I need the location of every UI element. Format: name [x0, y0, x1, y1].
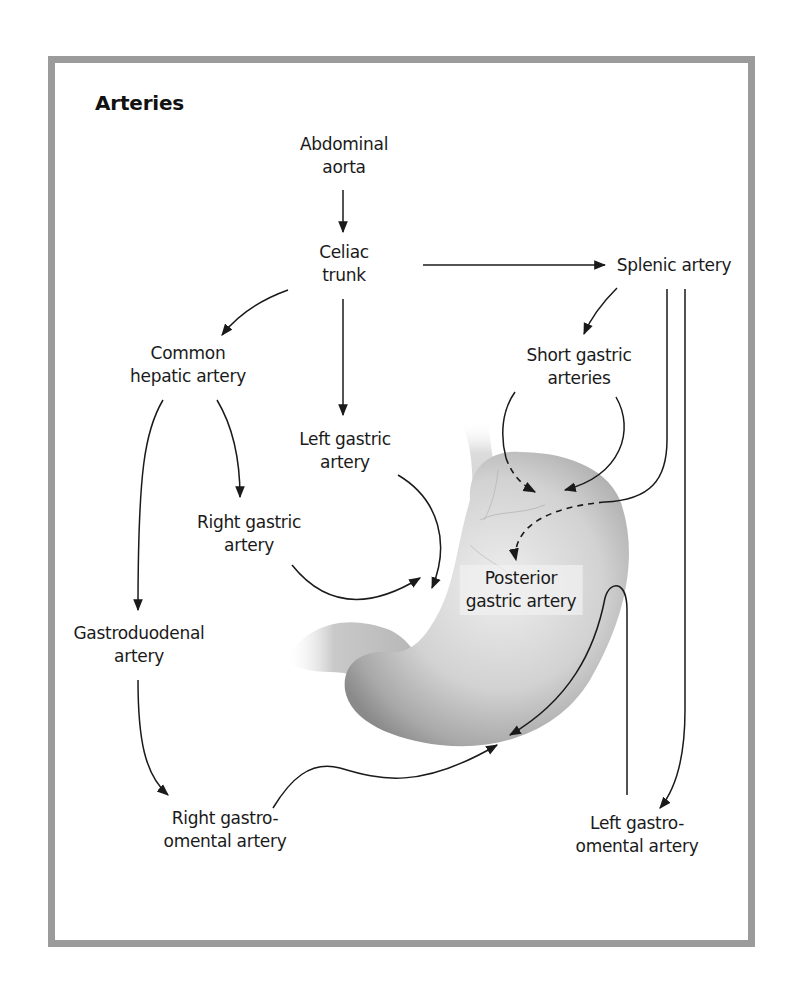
node-label-line: artery: [299, 451, 391, 474]
arrow-splenic-shortgastric: [584, 288, 617, 334]
node-label-line: omental artery: [164, 830, 287, 853]
node-label-line: gastric artery: [466, 590, 577, 613]
node-left-gastro-omental-artery: Left gastro- omental artery: [576, 812, 699, 858]
node-label-line: Splenic artery: [617, 254, 731, 277]
node-common-hepatic-artery: Common hepatic artery: [130, 342, 246, 388]
node-posterior-gastric-artery: Posterior gastric artery: [460, 565, 583, 615]
node-label-line: Posterior: [466, 567, 577, 590]
arrow-hepatic-rightgastric: [217, 400, 240, 497]
node-label-line: hepatic artery: [130, 365, 246, 388]
node-short-gastric-arteries: Short gastric arteries: [527, 344, 632, 390]
node-label-line: aorta: [300, 156, 388, 179]
node-label-line: Celiac: [319, 241, 369, 264]
node-label-line: Gastroduodenal: [73, 622, 204, 645]
arrow-gastroduodenal-rightgastroomental: [138, 680, 168, 795]
arrow-celiac-hepatic: [222, 290, 288, 335]
line-shortgastric-left: [503, 392, 515, 458]
node-label-line: omental artery: [576, 835, 699, 858]
node-label-line: Common: [130, 342, 246, 365]
arrow-rightgastroomental-stomach: [273, 745, 497, 808]
arrow-rightgastric-stomach: [292, 565, 420, 599]
node-left-gastric-artery: Left gastric artery: [299, 428, 391, 474]
node-label-line: trunk: [319, 264, 369, 287]
node-label-line: Right gastro-: [164, 807, 287, 830]
node-label-line: artery: [73, 645, 204, 668]
node-celiac-trunk: Celiac trunk: [319, 241, 369, 287]
arrow-leftgastric-stomach: [398, 475, 441, 588]
node-label-line: Right gastric: [197, 511, 301, 534]
node-label-line: Abdominal: [300, 133, 388, 156]
line-splenic-fundus: [605, 289, 667, 502]
node-label-line: Left gastro-: [576, 812, 699, 835]
node-gastroduodenal-artery: Gastroduodenal artery: [73, 622, 204, 668]
diagram-title: Arteries: [95, 91, 184, 115]
node-label-line: Short gastric: [527, 344, 632, 367]
node-right-gastric-artery: Right gastric artery: [197, 511, 301, 557]
node-right-gastro-omental-artery: Right gastro- omental artery: [164, 807, 287, 853]
node-abdominal-aorta: Abdominal aorta: [300, 133, 388, 179]
node-splenic-artery: Splenic artery: [617, 254, 731, 277]
node-label-line: artery: [197, 534, 301, 557]
arrow-hepatic-gastroduodenal: [138, 400, 163, 610]
node-label-line: Left gastric: [299, 428, 391, 451]
arrow-splenic-leftgastroomental: [660, 289, 685, 808]
node-label-line: arteries: [527, 367, 632, 390]
